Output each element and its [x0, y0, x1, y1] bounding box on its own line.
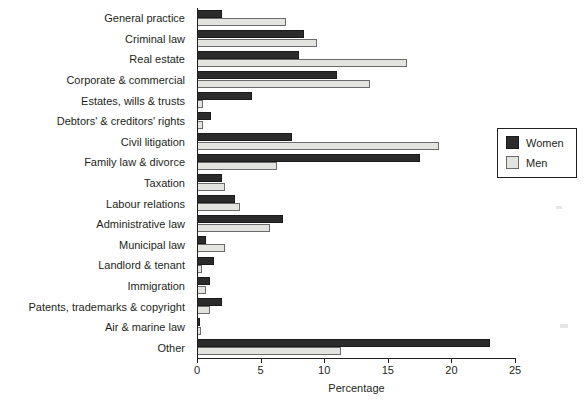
x-tick: [388, 358, 389, 363]
x-tick-label: 0: [194, 364, 200, 376]
category-label: Landlord & tenant: [98, 259, 185, 271]
bar-men: [197, 347, 341, 355]
horizontal-bar-chart: General practiceCriminal lawReal estateC…: [0, 0, 585, 413]
x-tick-label: 5: [258, 364, 264, 376]
bar-women: [197, 112, 211, 120]
bar-women: [197, 10, 222, 18]
x-tick-label: 10: [318, 364, 330, 376]
category-label: Labour relations: [106, 198, 185, 210]
bar-men: [197, 244, 225, 252]
bar-women: [197, 71, 337, 79]
bar-row: [197, 132, 515, 153]
x-tick-label: 25: [509, 364, 521, 376]
bar-row: [197, 152, 515, 173]
scan-artifact: [560, 324, 568, 328]
scan-artifact: [556, 206, 562, 209]
bar-row: [197, 90, 515, 111]
legend-item-women: Women: [506, 136, 564, 149]
bar-row: [197, 317, 515, 338]
bar-women: [197, 51, 299, 59]
bar-women: [197, 195, 235, 203]
bar-row: [197, 173, 515, 194]
x-tick: [324, 358, 325, 363]
bar-men: [197, 59, 407, 67]
x-tick: [197, 358, 198, 363]
legend-label-women: Women: [526, 137, 564, 149]
category-label: Patents, trademarks & copyright: [28, 301, 185, 313]
bar-men: [197, 18, 286, 26]
x-tick-label: 20: [445, 364, 457, 376]
bar-row: [197, 193, 515, 214]
y-axis-line: [197, 8, 198, 359]
legend-item-men: Men: [506, 156, 547, 169]
men-swatch-icon: [506, 156, 519, 169]
bar-men: [197, 224, 270, 232]
category-label: Civil litigation: [121, 136, 185, 148]
bar-women: [197, 277, 210, 285]
x-tick: [451, 358, 452, 363]
bar-women: [197, 339, 490, 347]
bar-row: [197, 49, 515, 70]
bar-men: [197, 286, 206, 294]
bar-women: [197, 174, 222, 182]
women-swatch-icon: [506, 136, 519, 149]
bar-women: [197, 92, 252, 100]
x-axis-line: [197, 358, 516, 359]
category-label: Administrative law: [96, 218, 185, 230]
bar-men: [197, 39, 317, 47]
bar-men: [197, 162, 277, 170]
category-label: Criminal law: [125, 33, 185, 45]
bar-men: [197, 203, 240, 211]
bar-women: [197, 215, 283, 223]
bar-women: [197, 30, 304, 38]
bar-men: [197, 306, 210, 314]
bar-row: [197, 255, 515, 276]
bar-row: [197, 234, 515, 255]
bar-women: [197, 298, 222, 306]
category-label: Corporate & commercial: [66, 74, 185, 86]
bar-women: [197, 236, 206, 244]
plot-area: [197, 8, 515, 358]
bar-row: [197, 276, 515, 297]
bar-row: [197, 111, 515, 132]
bar-men: [197, 183, 225, 191]
category-label: General practice: [104, 12, 185, 24]
x-tick: [515, 358, 516, 363]
category-label: Immigration: [128, 280, 185, 292]
category-label: Family law & divorce: [84, 156, 185, 168]
category-label: Municipal law: [119, 239, 185, 251]
category-label: Air & marine law: [105, 321, 185, 333]
category-label: Other: [157, 342, 185, 354]
bar-men: [197, 142, 439, 150]
bar-row: [197, 214, 515, 235]
legend-label-men: Men: [526, 157, 547, 169]
bar-row: [197, 70, 515, 91]
x-tick-label: 15: [382, 364, 394, 376]
bar-women: [197, 257, 214, 265]
bar-row: [197, 337, 515, 358]
legend: Women Men: [497, 128, 577, 178]
bar-men: [197, 80, 370, 88]
bar-row: [197, 296, 515, 317]
bar-row: [197, 29, 515, 50]
bar-women: [197, 133, 292, 141]
x-tick: [261, 358, 262, 363]
category-label: Debtors' & creditors' rights: [57, 115, 185, 127]
category-axis-labels: General practiceCriminal lawReal estateC…: [0, 8, 192, 358]
category-label: Estates, wills & trusts: [81, 95, 185, 107]
category-label: Real estate: [129, 53, 185, 65]
bar-women: [197, 154, 420, 162]
x-axis-title: Percentage: [197, 382, 516, 394]
category-label: Taxation: [144, 177, 185, 189]
bar-row: [197, 8, 515, 29]
